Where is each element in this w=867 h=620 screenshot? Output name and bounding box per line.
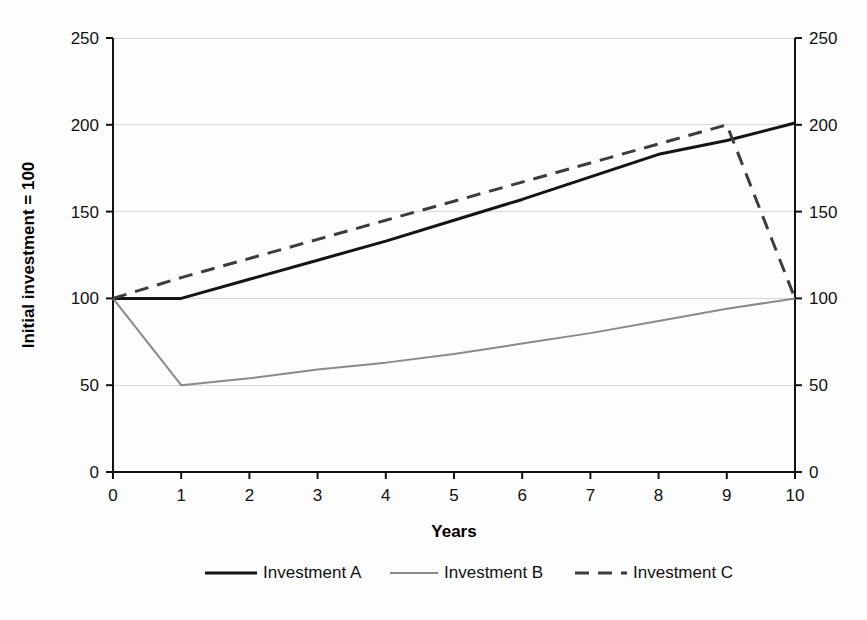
series-line-investment-b	[113, 298, 795, 385]
x-axis-tick-label: 0	[108, 486, 117, 505]
y-axis-left-tick-label: 150	[71, 203, 99, 222]
legend-label-investment-a: Investment A	[263, 563, 362, 582]
chart-figure: 050100150200250 050100150200250 01234567…	[0, 0, 867, 620]
chart-legend: Investment AInvestment BInvestment C	[205, 563, 733, 582]
y-axis-right-tick-label: 250	[809, 29, 837, 48]
x-axis-tick-label: 1	[176, 486, 185, 505]
y-axis-right-tick-label: 150	[809, 203, 837, 222]
legend-item-investment-c[interactable]: Investment C	[575, 563, 733, 582]
y-axis-right-tick-label: 100	[809, 289, 837, 308]
x-axis-tick-label: 9	[722, 486, 731, 505]
y-axis-right-tick-label: 50	[809, 376, 828, 395]
chart-axes	[113, 38, 795, 472]
x-axis-title: Years	[431, 522, 476, 541]
legend-item-investment-b[interactable]: Investment B	[390, 563, 543, 582]
y-axis-right-tick-label: 0	[809, 463, 818, 482]
x-axis-tick-label: 5	[449, 486, 458, 505]
y-axis-right-tick-label: 200	[809, 116, 837, 135]
x-axis-tick-label: 4	[381, 486, 390, 505]
legend-label-investment-c: Investment C	[633, 563, 733, 582]
y-axis-left-tick-label: 250	[71, 29, 99, 48]
y-axis-right-tick-labels: 050100150200250	[809, 29, 837, 482]
legend-label-investment-b: Investment B	[444, 563, 543, 582]
axis-ticks	[106, 38, 802, 479]
gridlines	[113, 38, 795, 385]
x-axis-tick-label: 8	[654, 486, 663, 505]
y-axis-left-tick-label: 200	[71, 116, 99, 135]
x-axis-tick-labels: 012345678910	[108, 486, 804, 505]
y-axis-left-tick-label: 50	[80, 376, 99, 395]
y-axis-left-tick-label: 0	[90, 463, 99, 482]
x-axis-tick-label: 7	[586, 486, 595, 505]
legend-item-investment-a[interactable]: Investment A	[205, 563, 362, 582]
x-axis-tick-label: 2	[245, 486, 254, 505]
x-axis-tick-label: 10	[786, 486, 805, 505]
x-axis-tick-label: 3	[313, 486, 322, 505]
line-chart-svg: 050100150200250 050100150200250 01234567…	[0, 0, 867, 620]
y-axis-left-tick-label: 100	[71, 289, 99, 308]
y-axis-title: Initial investment = 100	[19, 162, 38, 349]
data-series	[113, 123, 795, 385]
x-axis-tick-label: 6	[517, 486, 526, 505]
y-axis-left-tick-labels: 050100150200250	[71, 29, 99, 482]
series-line-investment-a	[113, 123, 795, 298]
